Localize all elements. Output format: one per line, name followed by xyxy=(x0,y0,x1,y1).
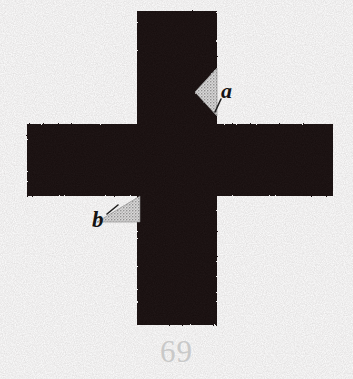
figure-page: a b 69 xyxy=(0,0,353,379)
cross-body-group xyxy=(27,11,333,325)
figure-number: 69 xyxy=(0,334,353,370)
figure-label-a: a xyxy=(221,80,232,102)
greek-cross-shape xyxy=(27,11,333,325)
figure-illustration xyxy=(0,0,353,379)
figure-label-b: b xyxy=(92,208,104,231)
